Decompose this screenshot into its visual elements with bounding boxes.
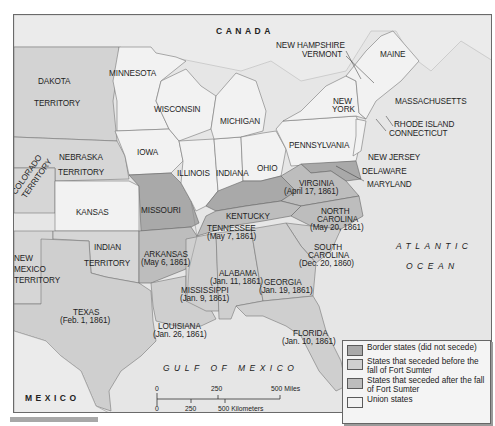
- label-minnesota: MINNESOTA: [109, 69, 156, 78]
- legend-swatch-seceded-before: [347, 359, 363, 370]
- label-newmexico-2: MEXICO: [14, 265, 46, 274]
- label-kansas: KANSAS: [76, 208, 109, 217]
- region-newyork: [283, 76, 366, 121]
- label-connecticut: CONNECTICUT: [389, 129, 447, 138]
- label-mississippi-2: (Jan. 9, 1861): [180, 294, 229, 303]
- label-indiana: INDIANA: [216, 169, 249, 178]
- label-wisconsin: WISCONSIN: [154, 105, 200, 114]
- legend-item-border: Border states (did not secede): [347, 344, 486, 356]
- scale-miles-zero: 0: [155, 385, 159, 392]
- label-virginia-2: (April 17, 1861): [284, 187, 338, 196]
- leader-ct: [376, 119, 386, 131]
- label-michigan: MICHIGAN: [220, 117, 260, 126]
- map-legend: Border states (did not secede) States th…: [342, 340, 491, 424]
- label-tennessee-2: (May 7, 1861): [207, 232, 256, 241]
- label-newyork-2: YORK: [332, 105, 355, 114]
- label-kentucky: KENTUCKY: [226, 212, 270, 221]
- scale-miles-mid: 250: [211, 385, 222, 392]
- legend-label-seceded-before: States that seceded before the fall of F…: [367, 358, 486, 375]
- region-michigan: [211, 73, 266, 139]
- label-canada: CANADA: [216, 26, 274, 36]
- label-ohio: OHIO: [257, 164, 278, 173]
- legend-swatch-border: [347, 345, 363, 356]
- label-illinois: ILLINOIS: [177, 169, 210, 178]
- label-nebraska-2: TERRITORY: [58, 168, 104, 177]
- label-delaware: DELAWARE: [362, 167, 407, 176]
- label-mexico: MEXICO: [25, 393, 80, 403]
- legend-item-seceded-after: States that seceded after the fall of Fo…: [347, 377, 486, 394]
- label-rhodeisland: RHODE ISLAND: [394, 120, 454, 129]
- label-vermont: VERMONT: [302, 50, 342, 59]
- scale-km-mid: 250: [185, 405, 196, 412]
- scale-bar: 0 250 500 Miles 0 250 500 Kilometers: [155, 384, 295, 414]
- legend-item-seceded-before: States that seceded before the fall of F…: [347, 358, 486, 375]
- legend-label-union: Union states: [367, 396, 413, 405]
- label-alabama-2: (Jan. 11, 1861): [210, 277, 263, 286]
- label-atlantic: ATLANTIC: [396, 241, 472, 251]
- label-indian-1: INDIAN: [94, 243, 121, 252]
- label-maine: MAINE: [380, 50, 405, 59]
- label-gulf: GULF OF MEXICO: [163, 363, 298, 373]
- scale-km-end: 500 Kilometers: [218, 405, 263, 412]
- label-nebraska-1: NEBRASKA: [59, 153, 103, 162]
- label-arkansas-2: (May 6, 1861): [141, 258, 190, 267]
- label-massachusetts: MASSACHUSETTS: [395, 97, 467, 106]
- label-iowa: IOWA: [137, 148, 158, 157]
- legend-swatch-seceded-after: [347, 378, 363, 389]
- label-pennsylvania: PENNSYLVANIA: [289, 141, 349, 150]
- decorative-bar: [10, 417, 98, 422]
- label-nc-3: (May 20, 1861): [310, 223, 364, 232]
- label-ocean: OCEAN: [406, 261, 459, 271]
- label-sc-3: (Dec. 20, 1860): [299, 259, 354, 268]
- legend-label-border: Border states (did not secede): [367, 344, 477, 353]
- label-dakota-1: DAKOTA: [38, 77, 70, 86]
- label-georgia-2: (Jan. 19, 1861): [259, 286, 313, 295]
- scale-miles-end: 500 Miles: [271, 385, 300, 392]
- label-louisiana-2: (Jan. 26, 1861): [153, 330, 207, 339]
- label-maryland: MARYLAND: [367, 180, 412, 189]
- label-texas-2: (Feb. 1, 1861): [60, 316, 110, 325]
- label-dakota-2: TERRITORY: [34, 99, 80, 108]
- region-kansas: [55, 181, 139, 231]
- scale-km-zero: 0: [155, 405, 159, 412]
- label-florida-2: (Jan. 10, 1861): [282, 337, 336, 346]
- legend-label-seceded-after: States that seceded after the fall of Fo…: [367, 377, 486, 394]
- label-newmexico-3: TERRITORY: [14, 276, 60, 285]
- legend-swatch-union: [347, 397, 363, 408]
- legend-item-union: Union states: [347, 396, 486, 408]
- label-newhampshire: NEW HAMPSHIRE: [276, 41, 345, 50]
- label-missouri: MISSOURI: [141, 206, 181, 215]
- label-newjersey: NEW JERSEY: [368, 153, 420, 162]
- label-newmexico-1: NEW: [14, 254, 33, 263]
- leader-ri: [386, 116, 393, 126]
- label-indian-2: TERRITORY: [84, 259, 130, 268]
- region-dakota: [14, 47, 119, 141]
